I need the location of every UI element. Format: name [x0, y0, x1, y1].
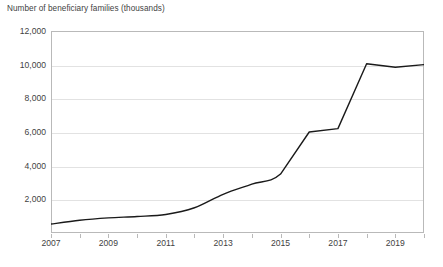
- x-axis-tick-mark: [367, 234, 368, 238]
- y-axis-tick-label: 12,000: [20, 26, 46, 36]
- x-axis-tick-mark: [80, 234, 81, 238]
- y-axis-tick-label: 8,000: [24, 93, 46, 103]
- y-axis-tick-label: 10,000: [20, 60, 46, 70]
- y-axis-tick-label: 2,000: [24, 194, 46, 204]
- line-chart: Number of beneficiary families (thousand…: [0, 0, 443, 267]
- x-axis-tick-label: 2019: [386, 238, 405, 248]
- x-axis-tick-label: 2011: [157, 238, 175, 248]
- x-axis-tick-label: 2015: [271, 238, 290, 248]
- x-axis-tick-label: 2009: [99, 238, 118, 248]
- y-axis-tick-label: 4,000: [24, 161, 46, 171]
- y-axis-tick-labels: 12,00010,0008,0006,0004,0002,000: [0, 0, 46, 267]
- x-axis-tick-label: 2013: [214, 238, 233, 248]
- x-axis-tick-mark: [309, 234, 310, 238]
- x-axis-tick-mark: [194, 234, 195, 238]
- x-axis-tick-mark: [252, 234, 253, 238]
- x-axis-tick-mark: [424, 234, 425, 238]
- series-path: [51, 64, 424, 224]
- data-series-line: [51, 31, 424, 233]
- x-axis-tick-label: 2007: [41, 238, 60, 248]
- y-axis-tick-label: 6,000: [24, 127, 46, 137]
- x-axis-tick-mark: [137, 234, 138, 238]
- x-axis-tick-label: 2017: [328, 238, 347, 248]
